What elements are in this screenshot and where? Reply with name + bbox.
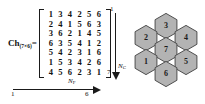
matrix-cell: 1 [94,68,104,78]
matrix-cell: 5 [56,68,66,78]
hex-5: 5 [175,49,197,74]
axis-horizontal-line [13,89,95,90]
axis-horizontal-label-sub: F [73,80,76,85]
matrix-label-subscript: (7×6) [20,43,32,49]
matrix-row: 456231 [46,68,104,78]
matrix-cell: 3 [84,68,94,78]
hex-1: 1 [135,49,157,74]
hex-6-label: 6 [164,69,168,78]
hex-7: 7 [155,37,177,62]
matrix-row: 241563 [46,20,104,30]
hex-2-label: 2 [144,33,148,42]
axis-vertical-label: NC [118,62,126,70]
axis-horizontal-tick-start: 1 [11,90,15,98]
hex-1-label: 1 [144,57,148,66]
hex-3-label: 3 [164,21,168,30]
axis-vertical-label-sub: C [123,65,126,70]
matrix-row: 153426 [46,58,104,68]
matrix-cell: 6 [65,68,75,78]
axis-horizontal-label: NF [68,77,75,85]
hex-7-label: 7 [164,45,168,54]
axis-horizontal-tick-end: 6 [85,90,89,98]
matrix-row: 362145 [46,29,104,39]
matrix-cell: 2 [75,68,85,78]
axis-vertical-tick-start: 1 [110,5,114,13]
hex-6: 6 [155,61,177,86]
matrix-rows: 1342562415633621456354125423161534264562… [44,9,106,78]
hex-3: 3 [155,13,177,38]
hex-4: 4 [175,25,197,50]
axis-vertical-line [115,13,116,75]
hex-5-label: 5 [184,57,188,66]
axis-horizontal-arrowhead-icon [93,86,101,94]
matrix-label-base: Ch [8,38,20,48]
axis-vertical-tick-end: 7 [107,68,111,76]
cellular-channel-allocation-figure: Ch(7×6)= 1342562415633621456354125423161… [0,0,205,104]
axis-vertical-arrowhead-icon [112,72,120,80]
axis-horizontal-frequencies: 1 6 NF [10,84,115,102]
matrix-row: 635412 [46,39,104,49]
matrix-equals-sign: = [32,38,37,48]
matrix-bracketed: 1342562415633621456354125423161534264562… [39,9,111,78]
hex-4-label: 4 [184,33,188,42]
matrix-row: 134256 [46,10,104,20]
axis-vertical-cells: 1 7 NC [111,6,125,86]
cluster-svg: 3247156 [129,9,203,91]
matrix-label: Ch(7×6)= [8,38,37,49]
matrix-row: 542316 [46,48,104,58]
matrix-cell: 4 [46,68,56,78]
hexagonal-cell-cluster: 3247156 [129,9,203,91]
hex-2: 2 [135,25,157,50]
